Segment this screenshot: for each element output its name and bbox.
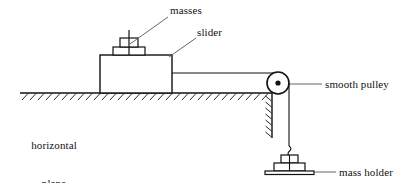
mass-holder-hook (288, 146, 291, 156)
label-horizontal-plane-line2: plane (18, 177, 90, 184)
physics-diagram: masses slider smooth pulley horizontal p… (0, 0, 410, 183)
masses-stack (113, 30, 145, 55)
label-horizontal-plane: horizontal plane (18, 114, 90, 183)
label-smooth-pulley: smooth pulley (325, 78, 389, 91)
ground-hatching (22, 94, 268, 101)
label-horizontal-plane-line1: horizontal (18, 139, 90, 152)
label-mass-holder: mass holder (339, 166, 393, 179)
mass-holder-stack (265, 155, 314, 175)
mass-holder-base-plate (265, 171, 314, 175)
pulley-axle-dot (275, 80, 280, 85)
label-slider: slider (197, 26, 222, 39)
wall-hatching (266, 96, 272, 137)
slider-block (100, 55, 172, 93)
label-masses: masses (170, 4, 202, 17)
slider-leader-line (169, 38, 196, 57)
pulley-wheel (267, 72, 289, 94)
masses-leader-line (130, 17, 168, 44)
